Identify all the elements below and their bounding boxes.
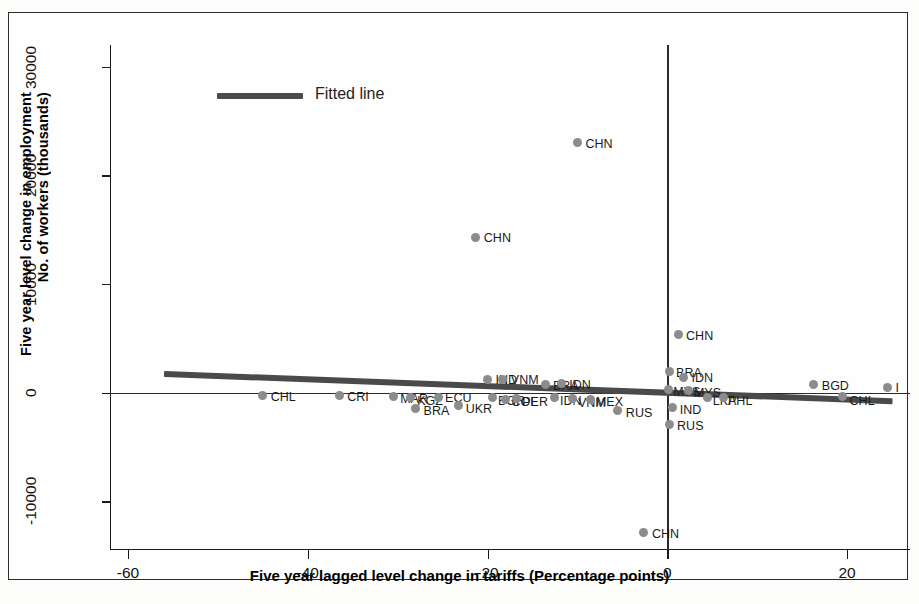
scatter-point-label: CHL <box>850 394 875 408</box>
scatter-point[interactable] <box>703 393 712 402</box>
y-tick-label: 30000 <box>22 25 92 109</box>
scatter-point[interactable] <box>665 367 674 376</box>
scatter-point-label: CHL <box>271 390 296 404</box>
scatter-point[interactable] <box>471 233 480 242</box>
scatter-point-label: PER <box>522 395 548 409</box>
scatter-point-label: I <box>896 381 899 395</box>
scatter-point[interactable] <box>550 393 559 402</box>
scatter-point[interactable] <box>434 393 443 402</box>
y-tick-label: 20000 <box>22 133 92 217</box>
scatter-point[interactable] <box>809 380 818 389</box>
x-tick-mark <box>488 550 489 559</box>
x-axis-line <box>110 549 910 550</box>
scatter-point[interactable] <box>389 392 398 401</box>
scatter-point-label: RUS <box>626 406 652 420</box>
scatter-point[interactable] <box>488 393 497 402</box>
scatter-point[interactable] <box>483 375 492 384</box>
y-tick-mark <box>102 284 111 285</box>
x-tick-mark <box>128 550 129 559</box>
x-tick-label: 0 <box>627 564 707 582</box>
scatter-point[interactable] <box>335 391 344 400</box>
x-tick-mark <box>667 550 668 559</box>
scatter-point[interactable] <box>454 401 463 410</box>
x-tick-mark <box>308 550 309 559</box>
scatter-point[interactable] <box>512 394 521 403</box>
scatter-point[interactable] <box>258 391 267 400</box>
y-tick-label: 10000 <box>22 242 92 326</box>
y-tick-label: 0 <box>22 351 92 435</box>
y-tick-mark <box>102 501 111 502</box>
plot-area: -100000100002000030000 -60-40-20020 CHNC… <box>100 30 900 535</box>
scatter-point[interactable] <box>501 395 510 404</box>
scatter-point-label: CHN <box>484 231 511 245</box>
scatter-point[interactable] <box>664 385 673 394</box>
y-axis-line <box>110 45 111 550</box>
x-tick-mark <box>847 550 848 559</box>
x-tick-label: -40 <box>268 564 348 582</box>
scatter-point[interactable] <box>883 383 892 392</box>
figure-container: Five year level change in employment No.… <box>0 0 919 604</box>
scatter-point[interactable] <box>719 393 728 402</box>
scatter-point[interactable] <box>573 138 582 147</box>
scatter-point-label: UKR <box>466 402 492 416</box>
scatter-point[interactable] <box>679 373 688 382</box>
legend-line-swatch <box>217 93 303 99</box>
scatter-point-label: PHL <box>728 394 752 408</box>
scatter-point[interactable] <box>411 404 420 413</box>
y-tick-label: -10000 <box>22 459 92 543</box>
scatter-point-label: IDN <box>569 378 591 392</box>
scatter-point[interactable] <box>674 330 683 339</box>
scatter-point-label: CHN <box>585 137 612 151</box>
x-tick-label: -60 <box>88 564 168 582</box>
scatter-point[interactable] <box>668 403 677 412</box>
scatter-point[interactable] <box>665 420 674 429</box>
scatter-point-label: VNM <box>511 373 539 387</box>
scatter-point-label: CHN <box>652 527 679 541</box>
scatter-point[interactable] <box>586 395 595 404</box>
scatter-point-label: IND <box>680 403 702 417</box>
vertical-reference-line <box>667 45 668 550</box>
scatter-point-label: CHN <box>686 329 713 343</box>
y-tick-mark <box>102 175 111 176</box>
scatter-point-label: BGD <box>822 379 849 393</box>
scatter-point-label: RUS <box>677 419 703 433</box>
y-tick-mark <box>102 67 111 68</box>
x-tick-label: 20 <box>807 564 887 582</box>
legend-label-fitted-line: Fitted line <box>315 85 384 103</box>
scatter-point-label: CRI <box>347 390 369 404</box>
scatter-point[interactable] <box>613 406 622 415</box>
scatter-point-label: BRA <box>424 404 450 418</box>
x-tick-label: -20 <box>448 564 528 582</box>
scatter-point-label: IDN <box>691 371 713 385</box>
